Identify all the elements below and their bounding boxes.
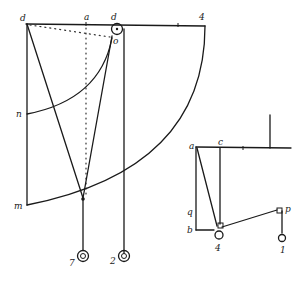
label-7: 7 (69, 258, 75, 268)
label-n: n (16, 109, 22, 119)
pulley-p-icon (277, 208, 282, 213)
label-4-side: 4 (214, 243, 221, 253)
label-c: c (218, 137, 223, 147)
label-d-left: d (20, 13, 26, 23)
weight-4-icon (215, 231, 223, 239)
label-4: 4 (198, 12, 205, 22)
right-string (83, 36, 112, 198)
large-arc (27, 26, 205, 205)
side-connecting-rope (222, 210, 277, 227)
label-o: o (113, 36, 119, 46)
side-diagonal (197, 148, 217, 226)
left-string (27, 24, 83, 198)
label-b: b (187, 225, 193, 235)
label-a: a (84, 12, 89, 22)
pulley-axle-icon (116, 28, 118, 30)
small-arc (27, 38, 112, 114)
diagram-canvas: d a d 4 o n m 7 2 a c q b 4 p 1 (0, 0, 305, 283)
weight-left-inner (81, 254, 86, 259)
weight-right-inner (122, 254, 127, 259)
dotted-diagonal (30, 25, 110, 37)
label-m: m (14, 201, 23, 211)
label-1: 1 (280, 245, 286, 255)
label-q: q (187, 207, 193, 217)
label-d-pulley: d (111, 12, 117, 22)
label-2: 2 (109, 256, 116, 266)
weight-1-icon (279, 235, 286, 242)
label-a-side: a (189, 141, 194, 151)
side-figure: a c q b 4 p 1 (187, 115, 291, 255)
label-p: p (285, 204, 291, 214)
weight-left-icon (78, 251, 89, 262)
main-figure: d a d 4 o n m 7 2 (14, 12, 205, 268)
